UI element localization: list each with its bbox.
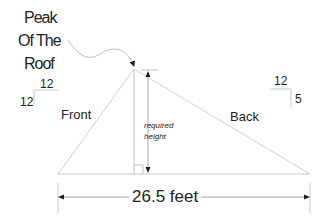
title-line-1: Peak <box>24 10 56 26</box>
required-height-label-line2: height <box>144 131 166 142</box>
right-angle-marker <box>134 165 143 174</box>
peak-pointer-curve <box>68 40 134 66</box>
back-label: Back <box>230 110 259 123</box>
span-arrow-left-icon <box>58 195 64 200</box>
front-pitch-run: 12 <box>40 78 53 90</box>
back-pitch-marker <box>270 89 291 108</box>
title-line-3: Roof <box>24 56 54 72</box>
height-arrow-up-icon <box>146 71 151 77</box>
front-label: Front <box>61 108 91 121</box>
front-pitch-marker <box>34 90 58 104</box>
required-height-label-line1: required <box>144 120 173 131</box>
title-line-2: Of The <box>18 33 61 49</box>
back-pitch-rise: 5 <box>295 93 302 105</box>
back-pitch-run: 12 <box>274 75 287 87</box>
span-dimension-label: 26.5 feet <box>129 188 201 205</box>
span-arrow-right-icon <box>304 195 310 200</box>
height-arrow-down-icon <box>146 167 151 173</box>
front-pitch-rise: 12 <box>20 96 33 108</box>
